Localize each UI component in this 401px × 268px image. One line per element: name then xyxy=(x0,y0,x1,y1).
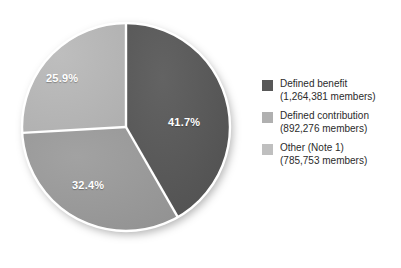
legend-swatch-icon-defined-contribution xyxy=(262,112,273,123)
legend-label-defined-benefit: Defined benefit xyxy=(280,78,376,91)
legend-text-defined-benefit: Defined benefit (1,264,381 members) xyxy=(280,78,376,103)
legend-label-defined-contribution: Defined contribution xyxy=(280,110,369,123)
pie-chart-svg xyxy=(0,0,258,268)
legend-item-defined-contribution: Defined contribution (892,276 members) xyxy=(262,110,401,135)
pie-slice-other-note-1[interactable] xyxy=(22,23,126,133)
legend-swatch-icon-defined-benefit xyxy=(262,80,273,91)
legend-sublabel-other: (785,753 members) xyxy=(280,155,367,168)
legend-text-defined-contribution: Defined contribution (892,276 members) xyxy=(280,110,369,135)
legend-item-defined-benefit: Defined benefit (1,264,381 members) xyxy=(262,78,401,103)
legend-sublabel-defined-benefit: (1,264,381 members) xyxy=(280,91,376,104)
legend-swatch-icon-other xyxy=(262,144,273,155)
legend-sublabel-defined-contribution: (892,276 members) xyxy=(280,123,369,136)
legend-text-other: Other (Note 1) (785,753 members) xyxy=(280,142,367,167)
legend-label-other: Other (Note 1) xyxy=(280,142,367,155)
pie-chart-figure: 41.7% 32.4% 25.9% Defined benefit (1,264… xyxy=(0,0,401,268)
chart-legend: Defined benefit (1,264,381 members) Defi… xyxy=(262,78,401,174)
legend-item-other: Other (Note 1) (785,753 members) xyxy=(262,142,401,167)
pie-chart-plot-area: 41.7% 32.4% 25.9% xyxy=(0,0,258,268)
